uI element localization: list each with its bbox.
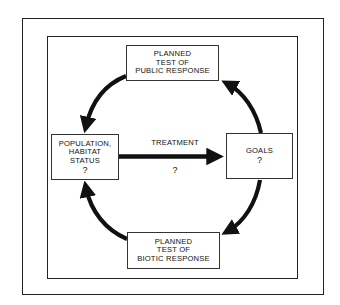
node-public-response: PLANNED TEST OF PUBLIC RESPONSE (126, 45, 219, 81)
arrow-right-to-top (228, 84, 261, 133)
node-text: PUBLIC RESPONSE (135, 67, 210, 76)
node-text: BIOTIC RESPONSE (137, 255, 210, 264)
node-goals: GOALS ? (226, 133, 293, 179)
question-mark: ? (257, 156, 262, 165)
arrow-right-to-bottom (228, 180, 260, 231)
arrow-top-to-left (86, 76, 126, 126)
node-biotic-response: PLANNED TEST OF BIOTIC RESPONSE (127, 232, 220, 269)
question-mark: ? (82, 166, 87, 175)
arrow-bottom-to-left (86, 188, 127, 239)
node-population-habitat-status: POPULATION, HABITAT STATUS ? (51, 134, 119, 180)
treatment-question-mark: ? (165, 165, 185, 175)
treatment-label: TREATMENT (145, 138, 205, 147)
